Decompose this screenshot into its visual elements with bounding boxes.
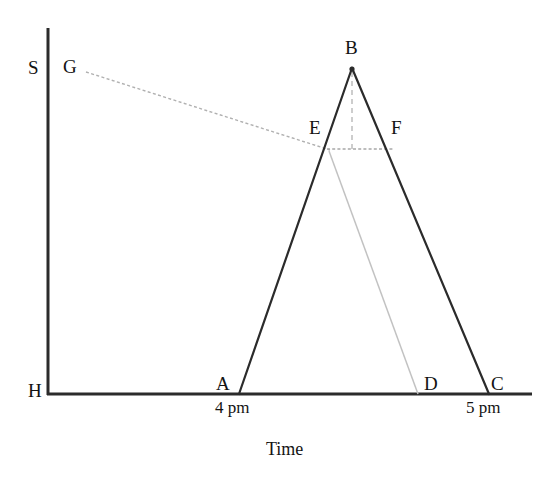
segment-E-D <box>329 151 418 394</box>
segment-B-C <box>352 68 489 394</box>
segment-G-E <box>86 72 330 150</box>
y-axis-top-label: S <box>28 58 39 77</box>
point-label-E: E <box>309 118 321 137</box>
y-axis-origin-label: H <box>28 381 42 400</box>
vertex-B-marker <box>349 66 354 71</box>
x-axis-title: Time <box>266 440 303 458</box>
point-label-F: F <box>391 118 402 137</box>
point-label-C: C <box>491 374 504 393</box>
segment-A-B <box>239 68 352 394</box>
point-label-D: D <box>424 374 438 393</box>
point-label-G: G <box>63 57 77 76</box>
x-tick-label-5pm: 5 pm <box>466 399 500 416</box>
x-tick-label-4pm: 4 pm <box>215 399 249 416</box>
point-label-A: A <box>216 374 230 393</box>
diagram-canvas: S H Time 4 pm 5 pm A B C D E F G <box>0 0 551 483</box>
point-label-B: B <box>345 38 358 57</box>
